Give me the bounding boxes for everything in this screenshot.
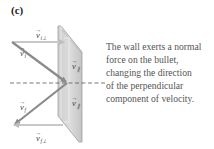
svg-text:f: f — [25, 107, 28, 113]
svg-text:→: → — [36, 130, 42, 136]
v-f-perp-label: v → f⊥ — [36, 130, 48, 145]
caption-line: The wall exerts a normal — [106, 40, 214, 53]
v-f-label: v → f — [20, 99, 28, 114]
caption-line: changing the direction — [106, 66, 214, 79]
caption-line: force on the bullet, — [106, 53, 214, 66]
caption-line: component of velocity. — [106, 92, 214, 105]
caption-line: of the perpendicular — [106, 79, 214, 92]
svg-text:f⊥: f⊥ — [41, 138, 48, 144]
caption: The wall exerts a normal force on the bu… — [106, 40, 214, 105]
svg-text:→: → — [20, 99, 26, 105]
svg-text:→: → — [72, 95, 78, 101]
svg-text:→: → — [20, 45, 26, 51]
svg-text:→: → — [72, 58, 78, 64]
svg-text:→: → — [36, 27, 42, 33]
v-i-perp-label: v → i⊥ — [36, 27, 48, 42]
svg-text:i: i — [25, 53, 27, 59]
svg-text:i⊥: i⊥ — [41, 35, 48, 41]
